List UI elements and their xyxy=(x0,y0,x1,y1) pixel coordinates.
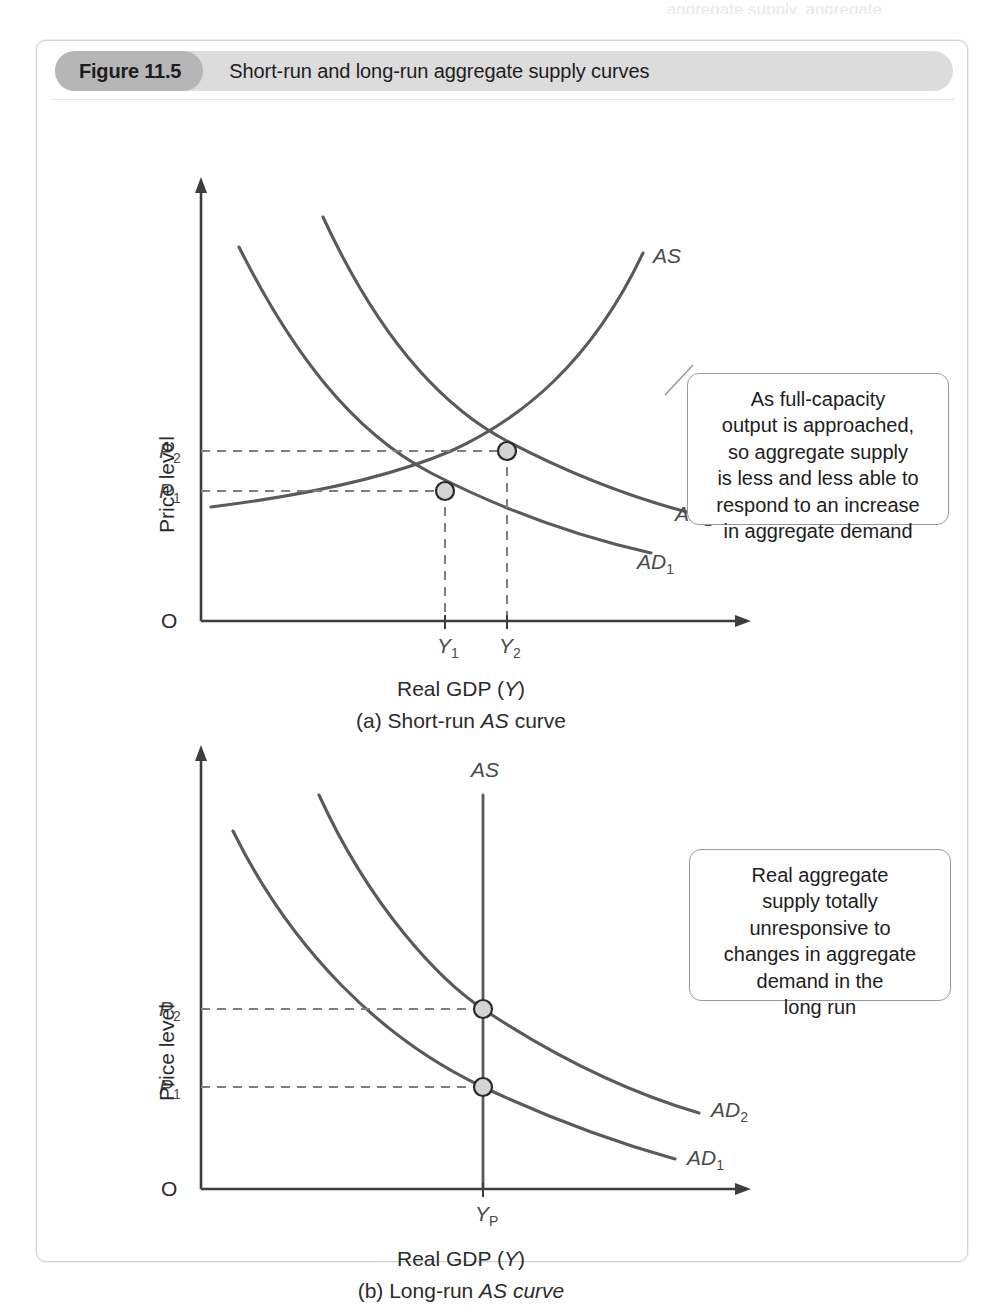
panel-b-x-axis-title-prefix: Real GDP ( xyxy=(397,1247,504,1270)
callout-a-line-3: so aggregate supply xyxy=(698,439,938,465)
callout-a-line-5: respond to an increase xyxy=(698,492,938,518)
callout-b-line-4: changes in aggregate xyxy=(700,941,940,967)
panel-a-xtick-y2: Y2 xyxy=(499,634,521,661)
panel-b-label-ad1: AD1 xyxy=(685,1146,724,1173)
panel-a-equilibrium-1 xyxy=(436,482,454,500)
callout-b-line-5: demand in the xyxy=(700,968,940,994)
panel-b-ad1-curve xyxy=(233,831,675,1159)
callout-a-line-1: As full-capacity xyxy=(698,386,938,412)
figure-title: Short-run and long-run aggregate supply … xyxy=(203,60,649,83)
header-divider xyxy=(51,99,955,100)
figure-number-badge: Figure 11.5 xyxy=(55,51,203,91)
callout-a-line-4: is less and less able to xyxy=(698,465,938,491)
callout-a-line-2: output is approached, xyxy=(698,412,938,438)
panel-a-equilibrium-2 xyxy=(498,442,516,460)
panel-b-origin-label: O xyxy=(161,1177,177,1200)
panel-b-x-axis-title-italic: Y xyxy=(504,1247,518,1270)
panel-a-xtick-y1: Y1 xyxy=(437,634,459,661)
callout-b-line-1: Real aggregate xyxy=(700,862,940,888)
panel-a-x-axis xyxy=(201,615,751,627)
panel-b-label-ad2: AD2 xyxy=(709,1098,748,1125)
figure-title-bar: Figure 11.5 Short-run and long-run aggre… xyxy=(55,51,953,91)
panel-b-caption: (b) Long-run AS curve xyxy=(9,1279,913,1303)
callout-b-line-6: long run xyxy=(700,994,940,1020)
callout-a-line-6: in aggregate demand xyxy=(698,518,938,544)
panel-a-label-as: AS xyxy=(651,244,681,267)
panel-b-ad2-curve xyxy=(319,795,699,1113)
callout-b-line-3: unresponsive to xyxy=(700,915,940,941)
panel-a-y-axis-title: Price level xyxy=(155,436,179,533)
panel-b-x-axis-title: Real GDP (Y) xyxy=(9,1247,913,1271)
panel-b-label-as: AS xyxy=(469,758,499,781)
page-running-header: aggregate supply, aggregate xyxy=(0,0,1002,14)
panel-a-callout: As full-capacity output is approached, s… xyxy=(687,373,949,525)
panel-b-x-axis xyxy=(201,1183,751,1195)
panel-b-equilibrium-2 xyxy=(474,1000,492,1018)
panel-b-y-axis xyxy=(195,745,207,1189)
panel-a-origin-label: O xyxy=(161,609,177,632)
panel-a-label-ad1: AD1 xyxy=(635,550,674,577)
panel-b-x-axis-title-suffix: ) xyxy=(518,1247,525,1270)
panel-b-xtick-yp: YP xyxy=(475,1202,498,1229)
panel-a-y-axis xyxy=(195,177,207,621)
panel-b-caption-prefix: (b) Long-run xyxy=(358,1279,479,1302)
figure-header: Figure 11.5 Short-run and long-run aggre… xyxy=(37,41,967,99)
panel-b-y-axis-title: Price level xyxy=(155,1004,179,1101)
panel-b-equilibrium-1 xyxy=(474,1078,492,1096)
panel-b-guides xyxy=(201,1009,483,1087)
callout-b-line-2: supply totally xyxy=(700,888,940,914)
panel-b-callout: Real aggregate supply totally unresponsi… xyxy=(689,849,951,1001)
panel-a-guides xyxy=(201,451,507,621)
plot-area: O P2 P1 Y1 Y2 AS AD2 AD1 xyxy=(51,101,955,1253)
figure-card: Figure 11.5 Short-run and long-run aggre… xyxy=(36,40,968,1262)
panel-b-caption-italic: AS curve xyxy=(479,1279,564,1302)
